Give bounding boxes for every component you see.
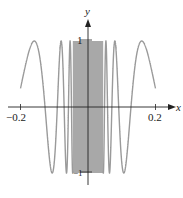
y-tick-label-bottom: −1 <box>73 168 83 178</box>
x-axis-arrow-icon <box>168 104 176 110</box>
x-axis-label: x <box>175 101 181 113</box>
x-tick-label-pos: 0.2 <box>148 111 162 123</box>
y-tick-label-top: 1 <box>77 34 83 46</box>
y-axis-arrow-icon <box>85 19 91 27</box>
function-plot: −0.2 0.2 1 −1 x y <box>0 0 183 198</box>
y-axis-label: y <box>84 5 90 17</box>
x-tick-label-neg: −0.2 <box>6 111 26 123</box>
